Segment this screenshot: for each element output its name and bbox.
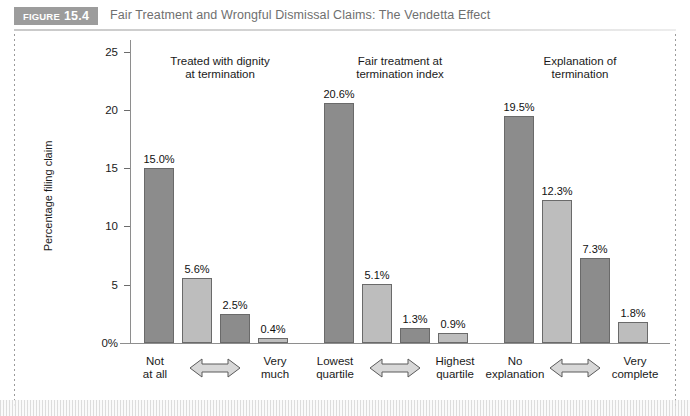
x-axis-label-left: Noexplanation (484, 355, 546, 381)
group-title-line-2: at termination (130, 68, 310, 81)
x-axis-label-left-line-1: No (484, 355, 546, 368)
y-axis-title: Percentage filing claim (42, 116, 54, 276)
x-axis-label-left: Lowestquartile (304, 355, 366, 381)
y-axis-tick-label: 25 (78, 46, 118, 58)
x-axis-line (120, 343, 670, 344)
bar (580, 258, 610, 343)
group-title-line-2: termination (490, 68, 670, 81)
x-axis-label-left-line-2: explanation (484, 368, 546, 381)
figure-title: Fair Treatment and Wrongful Dismissal Cl… (110, 8, 490, 22)
group-title-line-1: Treated with dignity (130, 55, 310, 68)
figure-number-badge: FIGURE 15.4 (14, 7, 98, 25)
y-axis-tick-label: 5 (78, 279, 118, 291)
bar (438, 333, 468, 343)
double-arrow-icon (548, 356, 602, 382)
bar (220, 314, 250, 343)
bar-value-label: 12.3% (533, 185, 581, 197)
bar-value-label: 2.5% (211, 299, 259, 311)
group-title-line-1: Fair treatment at (310, 55, 490, 68)
plot-area: Treated with dignityat termination15.0%5… (130, 40, 670, 343)
bar (324, 103, 354, 343)
x-axis-label-right-line-2: quartile (422, 368, 488, 381)
x-axis-label-left-line-1: Lowest (304, 355, 366, 368)
group-title: Explanation oftermination (490, 55, 670, 81)
x-axis-label-right-line-1: Very (242, 355, 308, 368)
x-axis-label-right: Highestquartile (422, 355, 488, 381)
bar (504, 116, 534, 343)
page-border-left (14, 34, 15, 406)
x-axis-label-right-line-1: Highest (422, 355, 488, 368)
bar-value-label: 1.8% (609, 307, 657, 319)
group-title: Fair treatment attermination index (310, 55, 490, 81)
header-divider (14, 29, 676, 31)
bar-value-label: 19.5% (495, 101, 543, 113)
y-axis-tick-label: 0% (78, 337, 118, 349)
x-axis-label-left-line-2: at all (124, 368, 186, 381)
x-axis-label-right-line-2: much (242, 368, 308, 381)
x-axis-label-left: Notat all (124, 355, 186, 381)
page-border-right (675, 34, 676, 406)
bar (182, 278, 212, 343)
y-axis-tick-label: 15 (78, 162, 118, 174)
bar (400, 328, 430, 343)
figure-header: FIGURE 15.4 Fair Treatment and Wrongful … (14, 4, 676, 30)
group-title-line-1: Explanation of (490, 55, 670, 68)
figure-badge-number: 15.4 (64, 9, 89, 23)
x-axis-label-left-line-2: quartile (304, 368, 366, 381)
double-arrow-icon (368, 356, 422, 382)
bar-value-label: 5.1% (353, 269, 401, 281)
x-axis-label-right-line-2: complete (602, 368, 668, 381)
bar-value-label: 7.3% (571, 243, 619, 255)
bar-value-label: 0.4% (249, 323, 297, 335)
x-axis-label-right: Verycomplete (602, 355, 668, 381)
bar (542, 200, 572, 343)
group-title-line-2: termination index (310, 68, 490, 81)
bar-value-label: 0.9% (429, 318, 477, 330)
y-axis-tick-label: 10 (78, 220, 118, 232)
bar-value-label: 15.0% (135, 153, 183, 165)
x-axis-label-left-line-1: Not (124, 355, 186, 368)
double-arrow-icon (188, 356, 242, 382)
x-axis-label-right: Verymuch (242, 355, 308, 381)
bar (362, 284, 392, 343)
bar (144, 168, 174, 343)
x-axis-label-right-line-1: Very (602, 355, 668, 368)
bar-value-label: 5.6% (173, 263, 221, 275)
page-bottom-edge (0, 400, 690, 416)
group-title: Treated with dignityat termination (130, 55, 310, 81)
bar (258, 338, 288, 343)
figure-badge-word: FIGURE (23, 11, 60, 22)
y-axis-tick-label: 20 (78, 104, 118, 116)
bar-value-label: 20.6% (315, 88, 363, 100)
chart: Percentage filing claim 0%510152025 Trea… (20, 40, 670, 395)
bar (618, 322, 648, 343)
